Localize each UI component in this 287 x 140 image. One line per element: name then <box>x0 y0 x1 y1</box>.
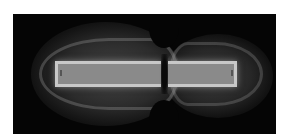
right-magnet-bar <box>168 61 237 87</box>
left-magnet-bar <box>55 61 161 87</box>
center-gap <box>161 54 168 94</box>
field-image-frame <box>13 14 276 134</box>
right-pole-mark <box>231 70 233 76</box>
left-pole-mark <box>60 70 62 76</box>
center-pinch-bottom <box>149 100 179 134</box>
center-pinch-top <box>149 14 179 48</box>
